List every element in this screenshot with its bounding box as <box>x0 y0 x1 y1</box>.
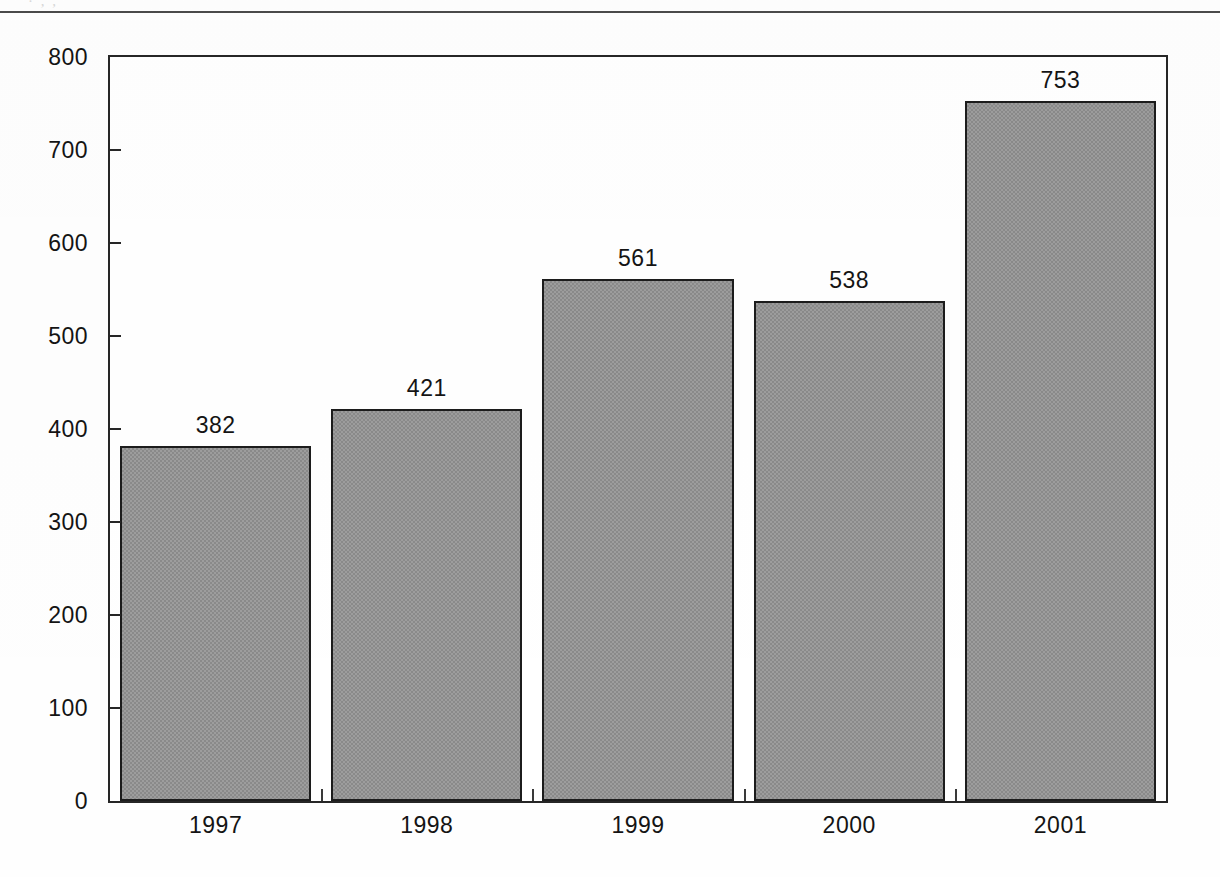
bar-value-label: 561 <box>618 245 658 272</box>
y-axis-tick-label: 400 <box>48 416 88 443</box>
y-axis-tick-label: 200 <box>48 602 88 629</box>
bar-value-label: 421 <box>407 375 447 402</box>
bar-1999 <box>542 279 733 801</box>
bar-1998 <box>331 409 522 801</box>
y-axis-tick-label: 800 <box>48 44 88 71</box>
x-axis-tick-label: 1997 <box>189 812 242 839</box>
y-axis-tick-mark <box>108 335 121 337</box>
y-axis-tick-mark <box>108 614 121 616</box>
y-axis-tick-mark <box>108 428 121 430</box>
y-axis-tick-label: 500 <box>48 323 88 350</box>
y-axis-tick-mark <box>108 149 121 151</box>
bar-2001 <box>965 101 1156 801</box>
x-axis-tick-label: 1999 <box>611 812 664 839</box>
bar-chart-figure: 0100200300400500600700800 38242156153875… <box>0 0 1220 877</box>
bar-value-label: 538 <box>829 267 869 294</box>
x-axis-tick-mark <box>744 789 746 801</box>
x-axis-tick-label: 2000 <box>823 812 876 839</box>
bar-value-label: 753 <box>1040 67 1080 94</box>
x-axis-tick-label: 2001 <box>1034 812 1087 839</box>
y-axis-tick-label: 0 <box>75 788 88 815</box>
x-axis-tick-label: 1998 <box>400 812 453 839</box>
plot-area: 382421561538753 <box>110 57 1166 801</box>
y-axis-tick-mark <box>108 242 121 244</box>
x-axis-tick-mark <box>955 789 957 801</box>
x-axis-tick-mark <box>532 789 534 801</box>
bar-2000 <box>754 301 945 801</box>
y-axis-tick-mark <box>108 521 121 523</box>
y-axis-tick-label: 100 <box>48 695 88 722</box>
x-axis-tick-mark <box>321 789 323 801</box>
y-axis: 0100200300400500600700800 <box>0 0 108 877</box>
bar-1997 <box>120 446 311 801</box>
y-axis-tick-label: 700 <box>48 137 88 164</box>
x-axis: 19971998199920002001 <box>110 812 1166 872</box>
y-axis-tick-label: 600 <box>48 230 88 257</box>
y-axis-tick-label: 300 <box>48 509 88 536</box>
y-axis-tick-mark <box>108 707 121 709</box>
bar-value-label: 382 <box>196 412 236 439</box>
page-root: · , , 0100200300400500600700800 38242156… <box>0 0 1220 877</box>
